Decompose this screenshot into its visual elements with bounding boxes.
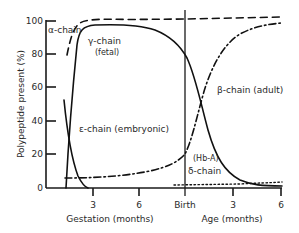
y-tick-60: 60 xyxy=(32,82,44,92)
epsilon-chain-label: ε-chain (embryonic) xyxy=(79,124,169,134)
y-tick-80: 80 xyxy=(32,49,44,59)
y-tick-0: 0 xyxy=(37,183,43,193)
x-axis-title-gestation: Gestation (months) xyxy=(66,214,153,224)
x-tick-gestation-3: 3 xyxy=(90,200,96,210)
alpha-chain-label: α-chain xyxy=(48,25,82,35)
y-tick-20: 20 xyxy=(32,149,44,159)
curve-labels: α-chain γ-chain (fetal) ε-chain (embryon… xyxy=(48,25,283,176)
y-axis-title: Polypeptide present (%) xyxy=(16,50,26,158)
x-tick-labels: 3 6 Birth 3 6 xyxy=(90,200,284,210)
delta-chain-label: δ-chain xyxy=(188,166,221,176)
delta-chain-curve xyxy=(174,182,282,185)
beta-chain-curve xyxy=(65,23,282,178)
x-axis-title-age: Age (months) xyxy=(201,214,262,224)
beta-chain-label: β-chain (adult) xyxy=(217,85,283,95)
y-tick-100: 100 xyxy=(26,16,43,26)
x-tick-age-3: 3 xyxy=(230,200,236,210)
axes xyxy=(46,10,282,196)
x-tick-gestation-6: 6 xyxy=(136,200,142,210)
x-tick-age-6: 6 xyxy=(278,200,284,210)
x-tick-birth: Birth xyxy=(174,200,196,210)
hba-label: (Hb-A) xyxy=(193,154,219,163)
gamma-fetal-label: (fetal) xyxy=(95,48,119,57)
epsilon-chain-curve xyxy=(64,100,88,188)
gamma-chain-label: γ-chain xyxy=(88,36,121,46)
hemoglobin-chain-chart: 100 80 60 40 20 0 3 6 Birth 3 6 Gestatio… xyxy=(0,0,299,233)
y-tick-labels: 100 80 60 40 20 0 xyxy=(26,16,43,193)
y-tick-40: 40 xyxy=(32,116,44,126)
